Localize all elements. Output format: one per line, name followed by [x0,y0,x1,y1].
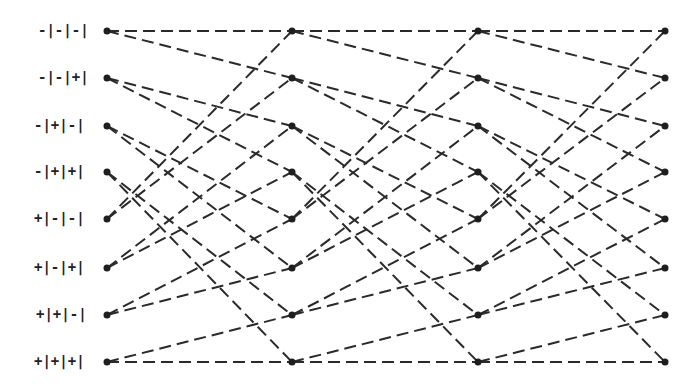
transition-edge [478,172,665,362]
transition-edge [478,126,665,219]
transition-edge [478,172,665,268]
transition-edge [478,31,665,219]
transition-edge [107,315,292,362]
transition-edge [478,31,665,78]
transition-edge [292,126,478,219]
transition-edge [292,172,478,362]
state-node [475,312,482,319]
state-node [662,75,669,82]
state-node [475,265,482,272]
state-node [104,216,111,223]
state-node [662,265,669,272]
transition-edge [107,31,292,78]
transition-edge [292,31,478,78]
transition-edge [292,172,478,315]
trellis-diagram [0,0,699,390]
transition-edge [107,268,292,315]
state-node [662,169,669,176]
state-label: -|+|-| [34,117,85,133]
state-label: +|-|-| [34,210,85,226]
state-node [104,75,111,82]
state-node [289,28,296,35]
state-node [475,216,482,223]
transition-edge [107,172,292,268]
state-node [662,359,669,366]
transition-edge [107,172,292,362]
transition-edge [478,268,665,315]
state-label: -|+|+| [34,163,85,179]
state-node [289,265,296,272]
state-label: -|-|-| [38,22,89,38]
transition-edge [292,78,478,126]
state-node [475,169,482,176]
state-node [104,265,111,272]
transition-edge [292,315,478,362]
state-node [104,123,111,130]
state-node [662,216,669,223]
state-label: +|+|+| [34,353,85,369]
state-node [662,28,669,35]
transition-edge [292,172,478,268]
transition-edge [478,315,665,362]
transition-edge [478,172,665,315]
state-node [662,123,669,130]
state-label: -|-|+| [38,69,89,85]
transition-edge [107,172,292,315]
state-node [475,359,482,366]
state-node [662,312,669,319]
state-node [289,123,296,130]
state-node [289,312,296,319]
state-node [475,75,482,82]
state-node [104,28,111,35]
state-label: +|+|-| [36,306,87,322]
transition-edge [107,31,292,219]
state-node [289,75,296,82]
transition-edge [107,78,292,126]
state-node [289,169,296,176]
state-node [104,169,111,176]
state-node [104,359,111,366]
state-node [289,359,296,366]
state-node [104,312,111,319]
transition-edge [292,31,478,219]
state-node [475,123,482,130]
state-node [475,28,482,35]
transition-edge [478,78,665,126]
transition-edge [292,268,478,315]
state-node [289,216,296,223]
transition-edge [107,126,292,219]
transition-edges [107,31,665,362]
state-label: +|-|+| [34,259,85,275]
